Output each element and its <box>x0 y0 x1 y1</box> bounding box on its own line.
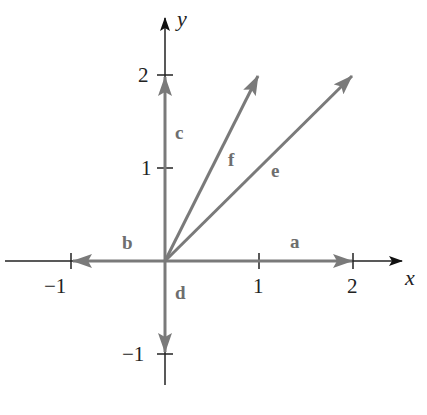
vector-f <box>165 76 258 261</box>
vector-label-b: b <box>122 232 133 253</box>
y-tick-label-neg1: −1 <box>122 342 144 366</box>
vector-label-e: e <box>271 160 279 181</box>
vector-label-c: c <box>175 122 183 143</box>
vector-e <box>165 76 352 261</box>
x-axis-label: x <box>404 265 415 290</box>
y-tick-label-1: 1 <box>141 156 152 180</box>
y-tick-label-2: 2 <box>138 63 149 87</box>
vector-label-f: f <box>228 149 235 170</box>
x-tick-label-neg1: −1 <box>44 274 66 298</box>
vector-diagram: −1 1 2 2 1 −1 x y a b c d e f <box>0 0 427 415</box>
y-axis-label: y <box>175 6 187 31</box>
vector-label-d: d <box>175 282 186 303</box>
x-tick-label-1: 1 <box>253 274 264 298</box>
x-tick-label-2: 2 <box>347 274 358 298</box>
vector-label-a: a <box>290 231 300 252</box>
